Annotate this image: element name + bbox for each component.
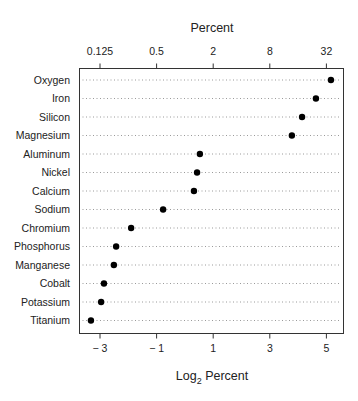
dot-plot-chart: 0.1250.52832 − 3− 1135 OxygenIronSilicon… bbox=[0, 0, 358, 401]
category-label: Sodium bbox=[34, 203, 70, 215]
category-label: Titanium bbox=[30, 314, 70, 326]
category-label: Aluminum bbox=[23, 148, 70, 160]
top-axis: 0.1250.52832 bbox=[87, 45, 333, 69]
category-label: Potassium bbox=[21, 296, 70, 308]
category-label: Oxygen bbox=[34, 74, 70, 86]
category-label: Calcium bbox=[32, 185, 70, 197]
bottom-axis-title-main: Log bbox=[176, 369, 197, 383]
data-point bbox=[113, 243, 119, 249]
bottom-tick-label: − 1 bbox=[149, 342, 164, 354]
top-tick-label: 0.5 bbox=[149, 45, 164, 57]
data-point bbox=[313, 95, 319, 101]
top-tick-label: 0.125 bbox=[87, 45, 113, 57]
top-tick-label: 2 bbox=[210, 45, 216, 57]
data-point bbox=[101, 280, 107, 286]
data-points bbox=[88, 77, 334, 324]
data-point bbox=[128, 225, 134, 231]
category-label: Manganese bbox=[15, 259, 70, 271]
bottom-tick-label: 5 bbox=[323, 342, 329, 354]
category-label: Iron bbox=[52, 92, 70, 104]
bottom-axis-title: Log2 Percent bbox=[176, 369, 249, 386]
category-label: Cobalt bbox=[40, 277, 70, 289]
category-label: Nickel bbox=[41, 166, 70, 178]
category-label: Chromium bbox=[22, 222, 71, 234]
category-label: Silicon bbox=[39, 111, 70, 123]
data-point bbox=[289, 132, 295, 138]
bottom-tick-label: 3 bbox=[267, 342, 273, 354]
top-tick-label: 32 bbox=[321, 45, 333, 57]
bottom-axis: − 3− 1135 bbox=[93, 334, 330, 355]
bottom-tick-label: − 3 bbox=[93, 342, 108, 354]
category-label: Phosphorus bbox=[14, 240, 70, 252]
top-axis-title: Percent bbox=[190, 21, 234, 35]
data-point bbox=[328, 77, 334, 83]
data-point bbox=[98, 299, 104, 305]
data-point bbox=[191, 188, 197, 194]
category-labels: OxygenIronSiliconMagnesiumAluminumNickel… bbox=[14, 74, 70, 326]
data-point bbox=[160, 206, 166, 212]
data-point bbox=[111, 262, 117, 268]
bottom-tick-label: 1 bbox=[210, 342, 216, 354]
category-label: Magnesium bbox=[16, 129, 71, 141]
bottom-axis-title-rest: Percent bbox=[202, 369, 249, 383]
data-point bbox=[197, 151, 203, 157]
data-point bbox=[194, 169, 200, 175]
data-point bbox=[88, 317, 94, 323]
data-point bbox=[299, 114, 305, 120]
top-tick-label: 8 bbox=[267, 45, 273, 57]
plot-frame bbox=[80, 69, 344, 334]
